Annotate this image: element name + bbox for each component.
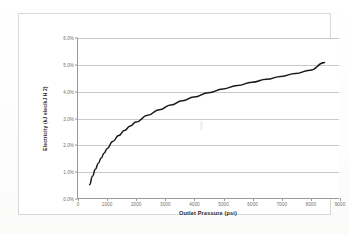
x-tick-mark [224,198,225,201]
curve-path [90,63,325,185]
x-tick-label: 8000 [306,202,317,207]
y-tick-label: 4.0% [63,89,74,94]
x-tick-label: 7000 [276,202,287,207]
y-axis-title-text: Electricity (kJ elec/kJ H 2) [43,86,48,150]
x-tick-mark [78,198,79,201]
y-axis-title: Electricity (kJ elec/kJ H 2) [40,38,50,199]
y-tick-label: 0.0% [63,197,74,202]
x-tick-label: 5000 [218,202,229,207]
x-tick-mark [253,198,254,201]
x-tick-mark [282,198,283,201]
x-tick-mark [136,198,137,201]
x-tick-label: 0 [77,202,80,207]
y-tick-label: 1.0% [63,170,74,175]
y-tick-label: 3.0% [63,116,74,121]
y-tick-label: 2.0% [63,143,74,148]
y-tick-label: 5.0% [63,62,74,67]
x-tick-label: 6000 [247,202,258,207]
x-tick-mark [165,198,166,201]
x-tick-label: 9000 [335,202,346,207]
x-tick-mark [194,198,195,201]
chart-frame: 0.0%1.0%2.0%3.0%4.0%5.0%6.0% 01000200030… [18,13,331,215]
x-tick-label: 3000 [160,202,171,207]
x-tick-label: 4000 [189,202,200,207]
scanned-page: 0.0%1.0%2.0%3.0%4.0%5.0%6.0% 01000200030… [0,0,349,235]
x-tick-label: 1000 [102,202,113,207]
data-line-series [78,38,339,198]
y-tick-label: 6.0% [63,36,74,41]
x-tick-mark [107,198,108,201]
plot-area: 0.0%1.0%2.0%3.0%4.0%5.0%6.0% 01000200030… [77,38,339,199]
x-tick-label: 2000 [131,202,142,207]
x-axis-title: Outlet Pressure (psi) [77,210,339,216]
x-tick-mark [340,198,341,201]
x-tick-mark [311,198,312,201]
